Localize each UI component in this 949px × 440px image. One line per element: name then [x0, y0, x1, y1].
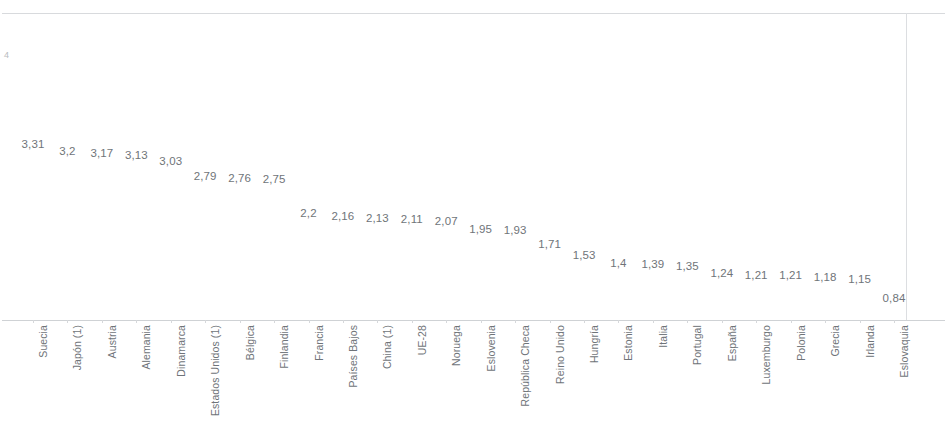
x-axis-category-label: Polonia: [795, 325, 807, 361]
data-value-label: 2,76: [228, 172, 251, 184]
x-axis-tick: [515, 320, 516, 323]
data-value-label: 1,93: [504, 224, 527, 236]
data-value-label: 3,03: [159, 155, 182, 167]
data-value-label: 2,07: [435, 215, 458, 227]
data-value-label: 3,13: [125, 149, 148, 161]
x-axis-category-label: Eslovenia: [485, 325, 497, 371]
x-axis-tick: [791, 320, 792, 323]
x-axis-category-label: Estados Unidos (1): [209, 325, 221, 416]
x-axis-category-label: Luxemburgo: [760, 325, 772, 384]
x-axis-tick: [687, 320, 688, 323]
data-value-label: 2,75: [263, 173, 286, 185]
x-axis-category-label: Austria: [106, 325, 118, 358]
x-axis-category-label: Portugal: [691, 325, 703, 365]
x-axis-tick: [33, 320, 34, 323]
chart-container: 4 3,313,23,173,133,032,792,762,752,22,16…: [0, 0, 949, 440]
x-axis-category-label: Eslovaquia: [898, 325, 910, 377]
data-value-label: 3,2: [59, 145, 75, 157]
data-value-label: 1,53: [573, 249, 596, 261]
x-axis-tick: [240, 320, 241, 323]
data-value-label: 1,21: [745, 269, 768, 281]
x-axis-category-label: UE-28: [416, 325, 428, 355]
y-axis-tick-label: 4: [4, 50, 9, 60]
x-axis-category-label: España: [726, 325, 738, 361]
x-axis-category-label: Grecia: [829, 325, 841, 357]
x-axis-category-label: Noruega: [450, 325, 462, 366]
data-value-label: 1,35: [676, 260, 699, 272]
plot-border-top: [2, 13, 945, 14]
x-axis-category-label: Estonia: [622, 325, 634, 361]
x-axis-category-label: Francia: [313, 325, 325, 361]
x-axis-tick: [618, 320, 619, 323]
x-axis-tick: [756, 320, 757, 323]
data-value-label: 2,11: [401, 213, 423, 225]
x-axis-tick: [412, 320, 413, 323]
x-axis-tick: [343, 320, 344, 323]
x-axis-category-label: Alemania: [140, 325, 152, 370]
data-value-label: 1,15: [848, 273, 871, 285]
data-value-label: 2,2: [300, 207, 316, 219]
data-value-label: 2,16: [332, 210, 355, 222]
data-value-label: 1,71: [538, 238, 561, 250]
x-axis-tick: [481, 320, 482, 323]
x-axis-line: [2, 320, 945, 321]
x-axis-tick: [102, 320, 103, 323]
x-axis-tick: [309, 320, 310, 323]
data-value-label: 0,84: [883, 292, 906, 304]
x-axis-tick: [205, 320, 206, 323]
data-value-label: 1,95: [469, 223, 492, 235]
x-axis-tick: [860, 320, 861, 323]
x-axis-tick: [377, 320, 378, 323]
data-value-label: 1,4: [610, 257, 626, 269]
x-axis-tick: [171, 320, 172, 323]
x-axis-category-label: Irlanda: [864, 325, 876, 358]
x-axis-category-label: Japón (1): [71, 325, 83, 370]
data-value-label: 1,18: [814, 271, 837, 283]
data-value-label: 3,31: [22, 138, 45, 150]
x-axis-tick: [653, 320, 654, 323]
x-axis-tick: [67, 320, 68, 323]
x-axis-category-label: Hungría: [588, 325, 600, 363]
x-axis-category-label: China (1): [381, 325, 393, 369]
x-axis-category-label: Reino Unido: [554, 325, 566, 384]
x-axis-category-label: Suecia: [37, 325, 49, 358]
x-axis-tick: [722, 320, 723, 323]
x-axis-category-label: Bélgica: [244, 325, 256, 360]
data-value-label: 2,79: [194, 170, 217, 182]
x-axis-category-label: República Checa: [519, 325, 531, 406]
plot-border-right: [906, 13, 907, 320]
data-value-label: 1,24: [710, 267, 733, 279]
x-axis-tick: [446, 320, 447, 323]
x-axis-tick: [136, 320, 137, 323]
x-axis-tick: [825, 320, 826, 323]
x-axis-category-label: Dinamarca: [175, 325, 187, 377]
x-axis-category-label: Países Bajos: [347, 325, 359, 387]
data-value-label: 2,13: [366, 212, 389, 224]
x-axis-tick: [584, 320, 585, 323]
x-axis-category-label: Italia: [657, 325, 669, 348]
data-value-label: 3,17: [90, 147, 113, 159]
x-axis-category-label: Finlandia: [278, 325, 290, 369]
x-axis-tick: [550, 320, 551, 323]
x-axis-tick: [894, 320, 895, 323]
x-axis-tick: [274, 320, 275, 323]
data-value-label: 1,39: [642, 258, 665, 270]
data-value-label: 1,21: [779, 269, 802, 281]
